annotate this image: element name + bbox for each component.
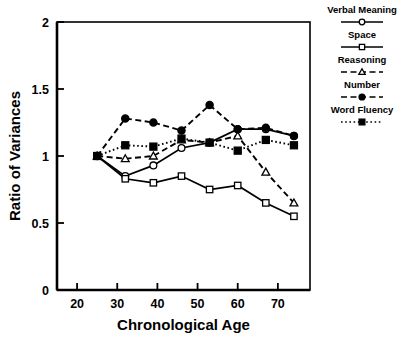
- data-point-filled-circle: [234, 126, 241, 133]
- y-tick-label: 0: [42, 284, 49, 298]
- data-point-open-circle: [178, 145, 185, 152]
- data-point-filled-square: [290, 142, 297, 149]
- legend-label: Space: [348, 29, 376, 40]
- y-tick-label: 1.5: [32, 83, 49, 97]
- chart-background: [0, 0, 414, 348]
- data-point-filled-square: [359, 119, 365, 125]
- x-tick-label: 30: [110, 297, 124, 311]
- data-point-open-square: [291, 213, 297, 219]
- y-axis-title: Ratio of Variances: [6, 91, 23, 221]
- data-point-filled-square: [234, 147, 241, 154]
- data-point-open-square: [150, 180, 156, 186]
- legend-label: Word Fluency: [331, 104, 394, 115]
- data-point-filled-square: [122, 142, 129, 149]
- x-tick-label: 60: [231, 297, 245, 311]
- x-tick-label: 50: [191, 297, 205, 311]
- data-point-filled-square: [94, 153, 101, 160]
- data-point-filled-circle: [150, 119, 157, 126]
- y-tick-label: 2: [42, 16, 49, 30]
- data-point-open-square: [359, 44, 364, 49]
- data-point-open-square: [178, 173, 184, 179]
- data-point-open-square: [206, 186, 212, 192]
- x-tick-label: 20: [70, 297, 84, 311]
- data-point-filled-circle: [178, 127, 185, 134]
- data-point-open-square: [263, 200, 269, 206]
- data-point-filled-square: [206, 139, 213, 146]
- data-point-filled-circle: [206, 101, 213, 108]
- x-tick-label: 40: [150, 297, 164, 311]
- legend-label: Number: [344, 79, 380, 90]
- data-point-filled-circle: [359, 94, 365, 100]
- data-point-filled-circle: [122, 115, 129, 122]
- legend-item-reasoning[interactable]: Reasoning: [338, 54, 387, 74]
- legend-label: Verbal Meaning: [327, 4, 397, 15]
- data-point-filled-square: [178, 135, 185, 142]
- legend-label: Reasoning: [338, 54, 387, 65]
- data-point-open-square: [235, 182, 241, 188]
- x-tick-label: 70: [271, 297, 285, 311]
- data-point-filled-circle: [262, 124, 269, 131]
- data-point-filled-square: [150, 143, 157, 150]
- y-tick-label: 0.5: [32, 217, 49, 231]
- data-point-open-circle: [150, 162, 157, 169]
- y-tick-label: 1: [42, 150, 49, 164]
- data-point-filled-square: [262, 136, 269, 143]
- ratio-of-variances-line-chart: 00.511.52Ratio of Variances203040506070C…: [0, 0, 414, 348]
- data-point-filled-circle: [290, 132, 297, 139]
- x-axis-title: Chronological Age: [117, 316, 250, 333]
- chart-figure: 00.511.52Ratio of Variances203040506070C…: [0, 0, 414, 348]
- data-point-open-circle: [359, 19, 365, 25]
- data-point-open-square: [122, 176, 128, 182]
